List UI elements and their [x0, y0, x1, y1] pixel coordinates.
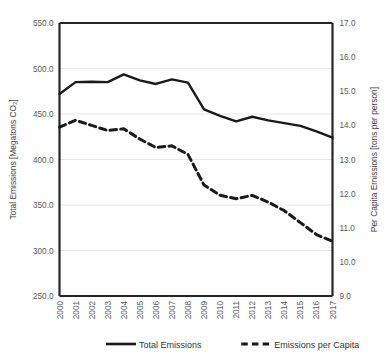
left-axis-tick-label: 300.0 [33, 247, 54, 256]
chart-container: 250.0300.0350.0400.0450.0500.0550.09.010… [0, 0, 387, 362]
x-axis-tick-label: 2004 [120, 301, 129, 320]
x-axis-tick-label: 2000 [56, 301, 65, 320]
right-axis-tick-label: 11.0 [340, 224, 356, 233]
left-axis-tick-label: 550.0 [33, 19, 54, 28]
left-axis-tick-label: 500.0 [33, 65, 54, 74]
right-axis-title: Per Capita Emissions [tons per person] [369, 87, 379, 232]
x-axis-tick-label: 2008 [184, 301, 193, 320]
left-axis-tick-label: 400.0 [33, 156, 54, 165]
right-axis-tick-label: 16.0 [340, 53, 356, 62]
right-axis-tick-label: 17.0 [340, 19, 356, 28]
legend-label-1: Total Emissions [139, 340, 202, 350]
x-axis-tick-label: 2012 [248, 301, 257, 320]
right-axis-tick-label: 14.0 [340, 121, 356, 130]
x-axis-tick-label: 2015 [296, 301, 305, 320]
x-axis-tick-label: 2017 [329, 301, 338, 320]
left-axis-tick-label: 250.0 [33, 292, 54, 301]
legend-label-2: Emissions per Capita [274, 340, 359, 350]
x-axis-tick-label: 2002 [88, 301, 97, 320]
x-axis-tick-label: 2005 [136, 301, 145, 320]
x-axis-tick-label: 2011 [232, 301, 241, 319]
x-axis-tick-label: 2016 [312, 301, 321, 320]
x-axis-tick-label: 2013 [264, 301, 273, 320]
left-axis-tick-label: 450.0 [33, 110, 54, 119]
right-axis-tick-label: 12.0 [340, 190, 356, 199]
emissions-line-chart: 250.0300.0350.0400.0450.0500.0550.09.010… [0, 0, 387, 362]
x-axis-tick-label: 2006 [152, 301, 161, 320]
right-axis-tick-label: 15.0 [340, 87, 356, 96]
right-axis-tick-label: 10.0 [340, 258, 356, 267]
right-axis-tick-label: 13.0 [340, 156, 356, 165]
right-axis-tick-label: 9.0 [340, 292, 352, 301]
x-axis-tick-label: 2001 [72, 301, 81, 320]
x-axis-tick-label: 2009 [200, 301, 209, 320]
x-axis-tick-label: 2010 [216, 301, 225, 320]
x-axis-tick-label: 2003 [104, 301, 113, 320]
x-axis-tick-label: 2014 [280, 301, 289, 320]
x-axis-tick-label: 2007 [168, 301, 177, 320]
left-axis-title: Total Emissions [Megatons CO₂] [8, 99, 18, 219]
left-axis-tick-label: 350.0 [33, 201, 54, 210]
